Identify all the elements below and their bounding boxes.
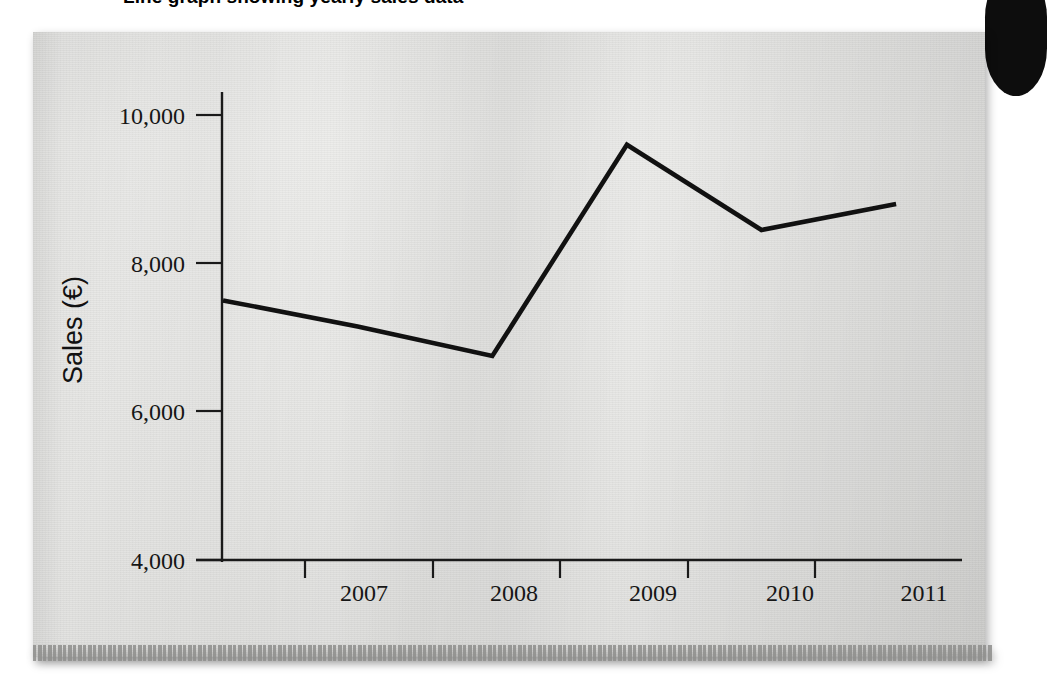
page-title: Line graph showing yearly sales data xyxy=(123,0,643,8)
paper-torn-edge xyxy=(33,645,993,661)
scanned-paper-figure xyxy=(33,32,985,657)
chapter-thumb-index-tab xyxy=(985,0,1047,96)
